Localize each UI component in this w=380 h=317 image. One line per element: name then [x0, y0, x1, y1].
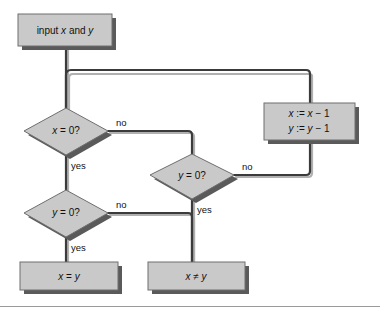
- edge-xzero-no-shadow: [110, 133, 194, 156]
- flowchart-container: input x and y x = 0? y = 0? y = 0?: [0, 0, 380, 317]
- connectors: [66, 46, 310, 262]
- node-result-not-equal-label: x ≠ y: [184, 271, 207, 282]
- edge-xzero-no: [108, 131, 192, 154]
- edge-label-y-zero-right-yes: yes: [197, 204, 212, 215]
- edge-label-y-zero-left-yes: yes: [71, 242, 86, 253]
- edge-label-x-zero-no: no: [116, 117, 127, 128]
- node-cond-y-zero-right: y = 0?: [150, 154, 238, 203]
- node-decrement: x := x − 1 y := y − 1: [264, 103, 359, 144]
- edge-label-y-zero-right-no: no: [242, 161, 253, 172]
- node-input-label: input x and y: [37, 25, 95, 36]
- node-result-equal-label: x = y: [57, 271, 80, 282]
- node-cond-x-zero: x = 0?: [24, 108, 112, 159]
- node-cond-y-zero-left: y = 0?: [24, 190, 112, 241]
- edge-yzero-left-no: [108, 213, 192, 262]
- node-result-not-equal: x ≠ y: [148, 262, 249, 294]
- edge-yzero-left-no-shadow: [110, 215, 194, 264]
- edge-label-x-zero-yes: yes: [71, 160, 86, 171]
- node-decrement-line2: y := y − 1: [287, 123, 330, 134]
- node-cond-y-zero-left-label: y = 0?: [51, 207, 80, 218]
- node-result-equal: x = y: [20, 262, 122, 294]
- edge-label-y-zero-left-no: no: [116, 199, 127, 210]
- edge-loopback-to-xzero: [66, 70, 310, 108]
- node-input: input x and y: [18, 14, 116, 50]
- flowchart-svg: input x and y x = 0? y = 0? y = 0?: [0, 0, 380, 317]
- edge-yzero-right-no-shadow: [236, 142, 312, 177]
- node-decrement-line1: x := x − 1: [287, 108, 330, 119]
- node-cond-x-zero-label: x = 0?: [51, 125, 80, 136]
- node-cond-y-zero-right-label: y = 0?: [177, 170, 206, 181]
